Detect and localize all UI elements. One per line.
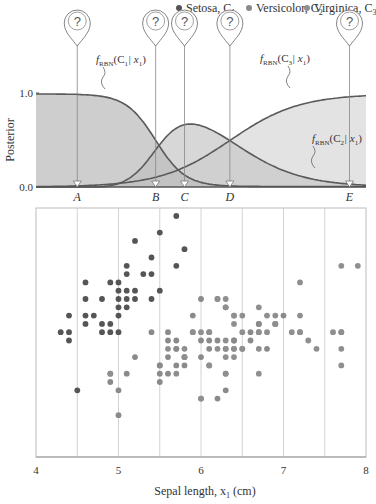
data-point-setosa [157, 230, 163, 236]
data-point-virginica [223, 354, 229, 360]
ytick-1: 1.0 [19, 87, 33, 99]
data-point-versicolor [157, 379, 163, 385]
data-point-setosa [149, 296, 155, 302]
data-point-setosa [83, 296, 89, 302]
data-point-versicolor [132, 354, 138, 360]
data-point-setosa [157, 288, 163, 294]
xtick-5: 5 [116, 464, 122, 476]
data-point-versicolor [264, 346, 270, 352]
data-point-virginica [182, 346, 188, 352]
xtick-8: 8 [363, 464, 369, 476]
data-point-virginica [239, 329, 245, 335]
data-point-versicolor [116, 412, 122, 418]
data-point-virginica [297, 280, 303, 286]
data-point-versicolor [116, 387, 122, 393]
marker-label-A: A [73, 190, 82, 204]
data-point-virginica [272, 321, 278, 327]
data-point-virginica [338, 346, 344, 352]
data-point-versicolor [173, 363, 179, 369]
question-mark-icon: ? [181, 14, 188, 29]
data-point-setosa [132, 296, 138, 302]
data-point-versicolor [124, 371, 130, 377]
data-point-versicolor [165, 371, 171, 377]
data-point-setosa [83, 280, 89, 286]
data-point-virginica [231, 346, 237, 352]
scatter-xlabel: Sepal length, x1 (cm) [154, 484, 255, 500]
data-point-virginica [190, 329, 196, 335]
data-point-versicolor [198, 296, 204, 302]
data-point-versicolor [256, 321, 262, 327]
xtick-4: 4 [33, 464, 39, 476]
data-point-setosa [58, 329, 64, 335]
data-point-virginica [223, 304, 229, 310]
data-point-setosa [116, 288, 122, 294]
marker-label-C: C [180, 190, 189, 204]
data-point-setosa [124, 296, 130, 302]
data-point-setosa [149, 271, 155, 277]
data-point-setosa [182, 246, 188, 252]
posterior-ylabel: Posterior [3, 118, 17, 161]
data-point-versicolor [173, 338, 179, 344]
data-point-versicolor [198, 354, 204, 360]
data-point-setosa [124, 263, 130, 269]
data-point-setosa [173, 263, 179, 269]
data-point-virginica [256, 329, 262, 335]
data-point-virginica [256, 346, 262, 352]
posterior-panel: ????? [36, 10, 366, 187]
data-point-versicolor [190, 313, 196, 319]
data-point-setosa [91, 313, 97, 319]
data-point-setosa [66, 329, 72, 335]
data-point-virginica [272, 313, 278, 319]
data-point-setosa [66, 313, 72, 319]
data-point-setosa [99, 296, 105, 302]
data-point-setosa [99, 321, 105, 327]
data-point-virginica [355, 263, 361, 269]
data-point-virginica [223, 338, 229, 344]
data-point-virginica [314, 346, 320, 352]
data-point-versicolor [231, 338, 237, 344]
data-point-setosa [116, 329, 122, 335]
data-point-setosa [74, 387, 80, 393]
annotation-c1: fRBN(C1| x1) [96, 53, 146, 68]
data-point-versicolor [206, 338, 212, 344]
marker-label-E: E [345, 190, 354, 204]
data-point-setosa [83, 313, 89, 319]
data-point-virginica [215, 346, 221, 352]
data-point-versicolor [173, 346, 179, 352]
data-point-setosa [124, 288, 130, 294]
data-point-setosa [132, 238, 138, 244]
data-point-virginica [338, 363, 344, 369]
data-point-setosa [107, 280, 113, 286]
data-point-virginica [264, 313, 270, 319]
data-point-virginica [239, 313, 245, 319]
data-point-setosa [116, 296, 122, 302]
data-point-setosa [66, 338, 72, 344]
data-point-versicolor [248, 338, 254, 344]
data-point-setosa [149, 255, 155, 261]
data-point-virginica [206, 329, 212, 335]
data-point-versicolor [206, 346, 212, 352]
data-point-versicolor [157, 371, 163, 377]
data-point-versicolor [182, 363, 188, 369]
data-point-virginica [231, 313, 237, 319]
data-point-versicolor [165, 338, 171, 344]
data-point-setosa [132, 288, 138, 294]
marker-label-B: B [152, 190, 160, 204]
data-point-setosa [124, 271, 130, 277]
data-point-versicolor [157, 363, 163, 369]
question-mark-icon: ? [346, 14, 353, 29]
data-point-versicolor [198, 338, 204, 344]
data-point-virginica [330, 329, 336, 335]
data-point-virginica [198, 329, 204, 335]
data-point-versicolor [107, 379, 113, 385]
data-point-virginica [231, 321, 237, 327]
annotation-c3: fRBN(C3| x1) [260, 52, 310, 67]
data-point-virginica [264, 329, 270, 335]
data-point-virginica [256, 304, 262, 310]
data-point-setosa [173, 213, 179, 219]
data-point-virginica [215, 296, 221, 302]
data-point-versicolor [165, 329, 171, 335]
data-point-virginica [173, 371, 179, 377]
data-point-virginica [297, 329, 303, 335]
data-point-versicolor [215, 396, 221, 402]
